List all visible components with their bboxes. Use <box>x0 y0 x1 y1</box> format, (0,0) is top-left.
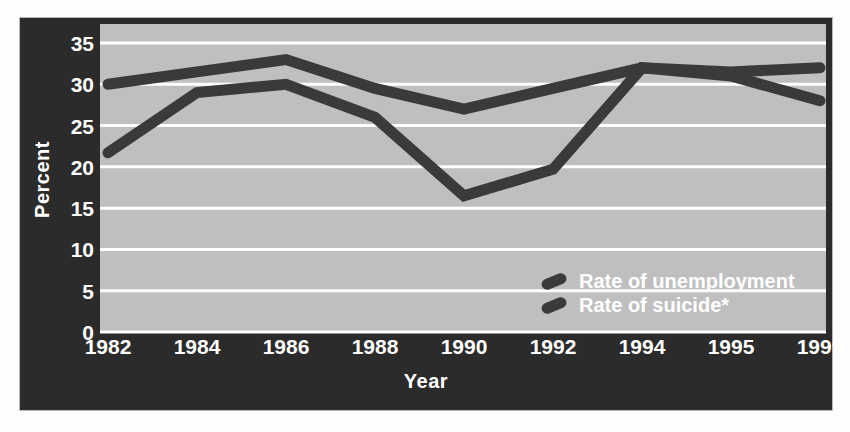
x-tick-label: 1994 <box>602 336 682 357</box>
y-tick-label: 20 <box>34 156 94 177</box>
y-tick-label: 30 <box>34 74 94 95</box>
y-tick-label: 5 <box>34 280 94 301</box>
y-tick-label: 25 <box>34 115 94 136</box>
x-tick-label: 1986 <box>246 336 326 357</box>
x-axis-title: Year <box>20 370 832 393</box>
y-tick-label: 15 <box>34 198 94 219</box>
x-tick-label: 1982 <box>68 336 148 357</box>
series-lines <box>108 60 820 196</box>
legend-swatch-icon <box>540 271 568 291</box>
chart-legend: Rate of unemploymentRate of suicide* <box>541 269 821 317</box>
series-line-suicide <box>108 68 820 196</box>
y-tick-label: 10 <box>34 239 94 260</box>
legend-item: Rate of suicide* <box>541 293 821 317</box>
legend-label: Rate of suicide* <box>579 295 729 315</box>
legend-label: Rate of unemployment <box>579 271 795 291</box>
x-tick-label: 1988 <box>335 336 415 357</box>
chart-figure: Percent 05101520253035 Rate of unemploym… <box>0 0 850 432</box>
chart-panel: Percent 05101520253035 Rate of unemploym… <box>20 18 832 410</box>
x-tick-label: 1992 <box>513 336 593 357</box>
legend-item: Rate of unemployment <box>541 269 821 293</box>
y-tick-label: 35 <box>34 33 94 54</box>
x-axis-ticks: 198219841986198819901992199419951999 <box>20 336 832 366</box>
x-tick-label: 1995 <box>691 336 771 357</box>
x-tick-label: 1999 <box>780 336 850 357</box>
legend-swatch-icon <box>540 295 568 315</box>
x-tick-label: 1984 <box>157 336 237 357</box>
x-tick-label: 1990 <box>424 336 504 357</box>
